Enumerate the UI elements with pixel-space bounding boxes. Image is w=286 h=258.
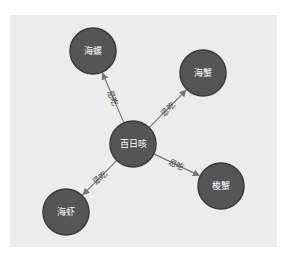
node-label: 海虾 — [57, 206, 75, 217]
edge-center-to-n3[interactable]: 忌吃 — [154, 154, 200, 176]
graph-svg: 忌吃 忌吃 忌吃 忌吃 百日咳 海螺 海蟹 梭蟹 — [0, 0, 286, 258]
node-label: 梭蟹 — [212, 180, 230, 191]
node-n3[interactable]: 梭蟹 — [198, 163, 244, 209]
edge-label: 忌吃 — [105, 89, 121, 108]
node-n1[interactable]: 海螺 — [70, 28, 116, 74]
edge-center-to-n4[interactable]: 忌吃 — [83, 160, 117, 195]
edge-center-to-n2[interactable]: 忌吃 — [149, 90, 186, 128]
nodes: 百日咳 海螺 海蟹 梭蟹 海虾 — [43, 28, 244, 235]
edge-label: 忌吃 — [167, 157, 186, 173]
node-label: 海蟹 — [194, 67, 212, 78]
edge-center-to-n1[interactable]: 忌吃 — [102, 73, 123, 123]
node-label: 百日咳 — [120, 138, 147, 149]
node-n4[interactable]: 海虾 — [43, 189, 89, 235]
node-n2[interactable]: 海蟹 — [180, 50, 226, 96]
node-center[interactable]: 百日咳 — [110, 121, 156, 167]
node-label: 海螺 — [84, 45, 102, 56]
